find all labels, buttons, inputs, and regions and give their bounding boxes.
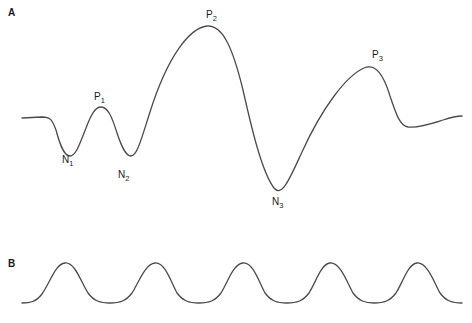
waveform-figure: A B N1 P1 N2 P2 N3 P3: [0, 0, 472, 323]
annotation-subscript: 2: [213, 14, 217, 23]
annotation-subscript: 3: [379, 54, 383, 63]
waveform-trace-b: [22, 263, 462, 303]
annotation-p1: P1: [94, 92, 105, 105]
annotation-p2: P2: [206, 10, 217, 23]
annotation-subscript: 1: [69, 159, 73, 168]
annotation-n2: N2: [118, 170, 129, 183]
waveform-trace-a: [22, 26, 462, 191]
annotation-subscript: 3: [279, 201, 283, 210]
annotation-n3: N3: [272, 197, 283, 210]
annotation-base: P: [372, 49, 379, 60]
annotation-n1: N1: [62, 155, 73, 168]
annotation-base: P: [94, 91, 101, 102]
annotation-subscript: 1: [101, 96, 105, 105]
annotation-p3: P3: [372, 50, 383, 63]
annotation-base: P: [206, 9, 213, 20]
annotation-subscript: 2: [125, 174, 129, 183]
